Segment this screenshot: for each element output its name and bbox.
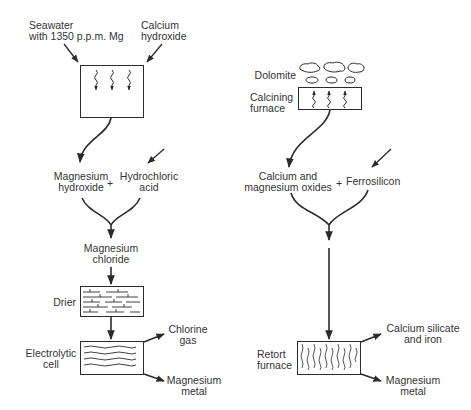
right-mg-metal-label: Magnesium metal (385, 375, 441, 397)
cell-line-2: cell (24, 359, 78, 370)
mg-chloride-line-2: chloride (80, 254, 142, 265)
plus-sign-left: + (107, 178, 113, 189)
oxides-line-2: magnesium oxides (242, 182, 334, 193)
calcining-furnace-box (299, 88, 362, 110)
calcining-furnace-label: Calcining furnace (250, 92, 293, 114)
left-metal-line-2: metal (166, 386, 222, 397)
silicate-output-arrow (361, 334, 381, 342)
mg-hydroxide-label: Magnesium hydroxide (49, 171, 113, 193)
chlorine-gas-label: Chlorine gas (166, 324, 210, 346)
mg-hydroxide-line-2: hydroxide (49, 182, 113, 193)
calcium-hydroxide-arrow (147, 44, 162, 62)
silicate-line-2: and iron (385, 334, 461, 345)
retort-line-2: furnace (257, 360, 292, 371)
ferrosilicon-input-arrow (372, 149, 391, 167)
calcining-line-2: furnace (250, 103, 293, 114)
seawater-line-2: with 1350 p.p.m. Mg (29, 31, 124, 42)
precipitation-tank (81, 66, 144, 118)
hydrochloric-acid-label: Hydrochloric acid (116, 171, 182, 193)
retort-furnace-label: Retort furnace (257, 349, 292, 371)
to-mg-hydroxide-arrow (80, 118, 111, 162)
oxides-label: Calcium and magnesium oxides (242, 171, 334, 193)
to-oxides-arrow (289, 110, 330, 167)
right-metal-line-2: metal (385, 386, 441, 397)
hcl-line-2: acid (116, 182, 182, 193)
drier-label: Drier (30, 297, 76, 308)
chlorine-output-arrow (144, 334, 164, 342)
left-mg-metal-label: Magnesium metal (166, 375, 222, 397)
calcium-hydroxide-line-2: hydroxide (141, 31, 187, 42)
seawater-label: Seawater with 1350 p.p.m. Mg (29, 20, 124, 42)
electrolytic-cell-label: Electrolytic cell (24, 348, 78, 370)
hcl-input-arrow (148, 149, 164, 163)
chlorine-line-2: gas (166, 335, 210, 346)
ferrosilicon-label: Ferrosilicon (346, 176, 400, 187)
calcium-silicate-label: Calcium silicate and iron (385, 323, 461, 345)
seawater-arrow (64, 44, 78, 62)
dolomite-label: Dolomite (246, 70, 296, 81)
mg-chloride-label: Magnesium chloride (80, 243, 142, 265)
mg-metal-output-arrow (144, 374, 164, 381)
calcium-hydroxide-label: Calcium hydroxide (141, 20, 187, 42)
plus-sign-right: + (336, 178, 342, 189)
right-mg-metal-output-arrow (361, 374, 381, 381)
